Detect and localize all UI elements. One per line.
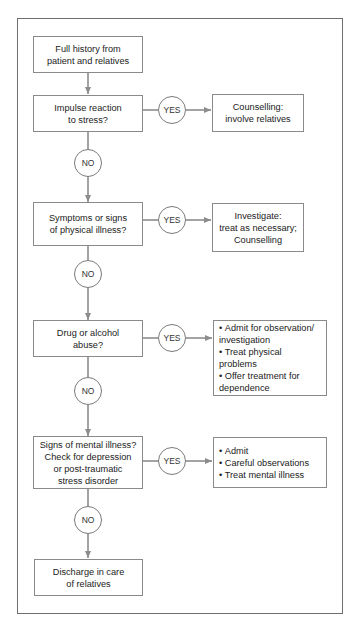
yes-circle: YES bbox=[158, 206, 186, 234]
yes-circle: YES bbox=[158, 447, 186, 475]
start-text-line: patient and relatives bbox=[47, 55, 129, 67]
action-text-line: Investigate: bbox=[219, 210, 297, 222]
decision-text-line: of physical illness? bbox=[49, 224, 127, 236]
action-box-counselling: Counselling: involve relatives bbox=[212, 94, 304, 132]
action-text-line: Counselling: bbox=[225, 101, 290, 113]
no-circle: NO bbox=[74, 506, 102, 534]
action-text-line: involve relatives bbox=[225, 113, 290, 125]
decision-box-drug-alcohol: Drug or alcohol abuse? bbox=[33, 320, 143, 357]
decision-text-line: Check for depression bbox=[40, 451, 137, 463]
yes-circle: YES bbox=[158, 96, 186, 124]
decision-text-line: abuse? bbox=[57, 339, 119, 351]
action-list-item: Treat physical problems bbox=[219, 346, 321, 370]
action-list-item: Treat mental illness bbox=[219, 469, 309, 481]
action-list-item: Admit bbox=[219, 445, 309, 457]
no-circle: NO bbox=[74, 260, 102, 288]
decision-text-line: Signs of mental illness? bbox=[40, 439, 137, 451]
decision-box-impulse-reaction: Impulse reaction to stress? bbox=[33, 95, 143, 132]
action-text-line: treat as necessary; bbox=[219, 222, 297, 234]
action-list-item: Offer treatment for dependence bbox=[219, 370, 321, 394]
action-text-line: Counselling bbox=[219, 234, 297, 246]
start-text-line: Full history from bbox=[47, 43, 129, 55]
start-box: Full history from patient and relatives bbox=[33, 36, 143, 73]
no-circle: NO bbox=[74, 149, 102, 177]
action-list-item: Admit for observation/ investigation bbox=[219, 322, 321, 346]
action-box-investigate: Investigate: treat as necessary; Counsel… bbox=[212, 203, 304, 252]
yes-circle: YES bbox=[158, 324, 186, 352]
action-box-admit-observation: Admit for observation/ investigation Tre… bbox=[213, 320, 327, 396]
end-box: Discharge in care of relatives bbox=[34, 559, 143, 596]
action-box-admit-mental: Admit Careful observations Treat mental … bbox=[213, 437, 327, 488]
action-list: Admit Careful observations Treat mental … bbox=[219, 445, 309, 481]
action-list: Admit for observation/ investigation Tre… bbox=[219, 322, 321, 394]
decision-text-line: Symptoms or signs bbox=[49, 212, 127, 224]
action-list-item: Careful observations bbox=[219, 457, 309, 469]
decision-text-line: stress disorder bbox=[40, 475, 137, 487]
end-text-line: Discharge in care bbox=[53, 566, 125, 578]
decision-box-mental-illness: Signs of mental illness? Check for depre… bbox=[33, 436, 143, 489]
no-circle: NO bbox=[74, 377, 102, 405]
decision-text-line: or post-traumatic bbox=[40, 463, 137, 475]
decision-box-physical-illness: Symptoms or signs of physical illness? bbox=[33, 202, 143, 246]
decision-text-line: to stress? bbox=[54, 114, 121, 126]
decision-text-line: Drug or alcohol bbox=[57, 327, 119, 339]
end-text-line: of relatives bbox=[53, 578, 125, 590]
decision-text-line: Impulse reaction bbox=[54, 102, 121, 114]
